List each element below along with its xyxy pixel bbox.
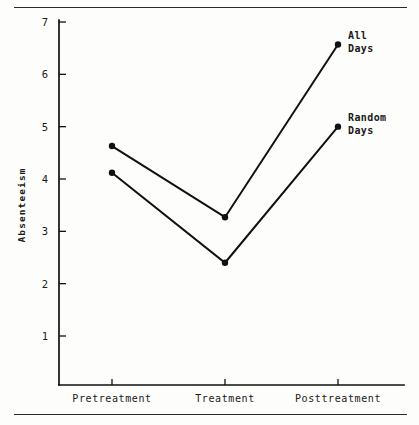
figure-container: 1234567 PretreatmentTreatmentPosttreatme… <box>0 0 419 425</box>
y-axis-title: Absenteeism <box>16 167 27 242</box>
data-point-1-2 <box>335 123 341 129</box>
data-point-0-2 <box>335 41 341 47</box>
data-point-1-1 <box>222 260 228 266</box>
series-label-0: Days <box>348 43 374 54</box>
x-axis-ticks <box>112 379 338 385</box>
data-point-0-0 <box>109 143 115 149</box>
data-point-1-0 <box>109 170 115 176</box>
x-axis-tick-labels: PretreatmentTreatmentPosttreatment <box>72 393 381 404</box>
y-tick-label: 3 <box>42 225 48 237</box>
series-line-1 <box>112 127 338 263</box>
data-point-0-1 <box>222 214 228 220</box>
series-label-1: Days <box>348 125 374 136</box>
line-chart: 1234567 PretreatmentTreatmentPosttreatme… <box>0 0 419 425</box>
x-tick-label: Posttreatment <box>295 393 381 404</box>
series-label-1: Random <box>348 112 387 123</box>
series-labels-group: AllDaysRandomDays <box>348 30 387 136</box>
y-tick-label: 4 <box>42 173 48 185</box>
series-label-0: All <box>348 30 367 41</box>
y-tick-label: 2 <box>42 278 48 290</box>
series-line-0 <box>112 45 338 218</box>
series-markers-group <box>109 41 341 266</box>
y-tick-label: 5 <box>42 121 48 133</box>
series-lines-group <box>112 45 338 263</box>
y-axis-tick-labels: 1234567 <box>42 16 48 342</box>
y-tick-label: 1 <box>42 330 48 342</box>
y-tick-label: 7 <box>42 16 48 28</box>
y-tick-label: 6 <box>42 68 48 80</box>
x-tick-label: Pretreatment <box>72 393 151 404</box>
y-axis-ticks <box>59 22 66 336</box>
x-tick-label: Treatment <box>195 393 255 404</box>
